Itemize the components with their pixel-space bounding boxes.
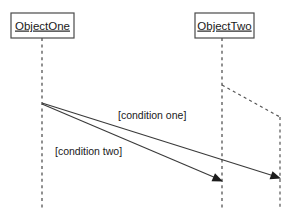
message-label-condition-two: [condition two] [55,145,122,157]
branch-lifeline-diagonal [222,85,280,117]
sequence-diagram-svg: ObjectOne ObjectTwo [condition one] [con… [0,0,301,220]
arrow-head-condition-two [212,173,224,181]
message-label-condition-one: [condition one] [118,109,186,121]
sequence-diagram-canvas: ObjectOne ObjectTwo [condition one] [con… [0,0,301,220]
object-label-object-two: ObjectTwo [197,20,251,32]
object-label-object-one: ObjectOne [15,20,70,32]
arrow-head-condition-one [270,171,282,179]
